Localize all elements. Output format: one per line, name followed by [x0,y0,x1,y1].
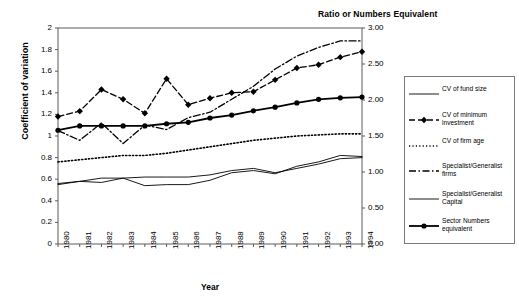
x-tick-label: 1983 [127,209,136,249]
series-marker [294,65,300,71]
y2-tick-label: 2.50 [368,59,398,68]
y-tick-label: 0.2 [26,217,52,226]
x-tick-label: 1991 [301,209,310,249]
x-tick-label: 1987 [214,209,223,249]
y2-tick-label: 3.00 [368,23,398,32]
y-tick-label: 1.6 [26,66,52,75]
y2-tick-label: 1.50 [368,131,398,140]
series-marker [207,95,213,101]
series-marker [207,115,212,120]
x-tick-label: 1986 [192,209,201,249]
series-marker [338,95,343,100]
series-marker [251,108,256,113]
x-tick-label: 1981 [84,209,93,249]
legend-label: CV of firm age [442,137,516,145]
y-tick-label: 0 [26,239,52,248]
legend-key-solid-thin [408,89,440,99]
series-marker [77,123,82,128]
series-marker [359,95,364,100]
series-marker [164,121,169,126]
series-marker [229,90,235,96]
series-marker [142,123,147,128]
series-line [58,155,362,185]
x-tick-label: 1988 [236,209,245,249]
y-tick-label: 1.8 [26,45,52,54]
y-tick-label: 0.6 [26,174,52,183]
y-tick-label: 1.2 [26,109,52,118]
series-marker [99,123,104,128]
legend-key-dashed-diamond [408,115,440,125]
legend-key-dotted [408,141,440,151]
x-tick-label: 1985 [171,209,180,249]
secondary-axis-title: Ratio or Numbers Equivalent [318,9,437,19]
series-line [58,41,362,144]
x-tick-label: 1982 [105,209,114,249]
series-marker [55,128,60,133]
series-line [58,134,362,162]
x-axis-title: Year [58,282,362,292]
legend-label: Sector Numbers equivalent [442,217,516,233]
legend-key-dash-dot [408,166,440,176]
x-tick-label: 1980 [62,209,71,249]
chart-legend: CV of fund sizeCV of minimum investmentC… [404,76,515,244]
x-tick-label: 1984 [149,209,158,249]
series-marker [272,77,278,83]
y2-tick-label: 2.00 [368,95,398,104]
series-line [58,158,362,184]
chart-figure: Ratio or Numbers Equivalent Coefficient … [0,0,519,299]
series-line [58,52,362,117]
y-tick-label: 0.4 [26,196,52,205]
x-tick-label: 1993 [344,209,353,249]
x-tick-label: 1992 [323,209,332,249]
legend-label: Specialist/Generalist firms [442,162,516,178]
x-tick-label: 1994 [366,209,375,249]
x-tick-label: 1989 [257,209,266,249]
y-tick-label: 1.4 [26,88,52,97]
legend-label: CV of fund size [442,85,516,93]
series-marker [273,105,278,110]
legend-key-solid-thin [408,194,440,204]
series-marker [250,89,256,95]
legend-label: Specialist/Generalist Capital [442,190,516,206]
series-marker [142,110,148,116]
series-marker [186,120,191,125]
series-marker [294,100,299,105]
legend-label: CV of minimum investment [442,111,516,127]
y-tick-label: 2 [26,23,52,32]
y2-tick-label: 1.00 [368,167,398,176]
series-marker [316,97,321,102]
series-marker [229,113,234,118]
y-tick-label: 1 [26,131,52,140]
x-tick-label: 1990 [279,209,288,249]
series-marker [315,62,321,68]
series-marker [120,96,126,102]
series-marker [337,54,343,60]
series-marker [77,108,83,114]
series-marker [121,123,126,128]
series-marker [359,49,365,55]
y-tick-label: 0.8 [26,153,52,162]
legend-key-solid-circle [408,221,440,231]
